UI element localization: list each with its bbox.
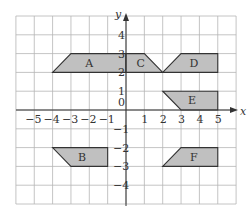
shape-label: B (78, 151, 86, 164)
x-tick-label: 2 (160, 113, 167, 126)
x-tick-label: 1 (141, 113, 148, 126)
x-tick-label: −2 (80, 113, 96, 126)
x-tick-label: −4 (44, 113, 60, 126)
y-tick-label: −3 (113, 160, 129, 173)
x-axis-arrow-icon (230, 107, 238, 113)
x-axis-label: x (240, 105, 247, 118)
shape-a: A (53, 54, 126, 73)
x-tick-label: 3 (178, 113, 185, 126)
y-tick-label: 1 (118, 85, 125, 98)
x-tick-label: −5 (25, 113, 41, 126)
x-tick-label: 5 (215, 113, 222, 126)
y-tick-label: −2 (113, 142, 129, 155)
shape-e: E (163, 91, 218, 110)
y-tick-label: −4 (113, 179, 129, 192)
shape-f: F (163, 148, 218, 167)
y-axis-label: y (114, 8, 122, 21)
x-tick-label: 4 (196, 113, 203, 126)
shape-label: F (190, 151, 198, 164)
shape-label: C (136, 57, 144, 70)
shape-b: B (53, 148, 108, 167)
shape-label: E (188, 94, 196, 107)
shape-d: D (163, 54, 218, 73)
x-tick-label: −3 (62, 113, 78, 126)
coordinate-grid-diagram: ACDEBF x y 0 −5−4−3−2−1123454321−1−2−3−4 (0, 0, 249, 221)
y-tick-label: 3 (118, 48, 125, 61)
y-axis-arrow-icon (123, 13, 129, 21)
y-tick-label: 4 (118, 29, 125, 42)
shape-c: C (126, 54, 163, 73)
shape-label: A (84, 57, 94, 70)
y-tick-label: −1 (113, 123, 129, 136)
shape-label: D (189, 57, 198, 70)
y-tick-label: 2 (118, 66, 125, 79)
